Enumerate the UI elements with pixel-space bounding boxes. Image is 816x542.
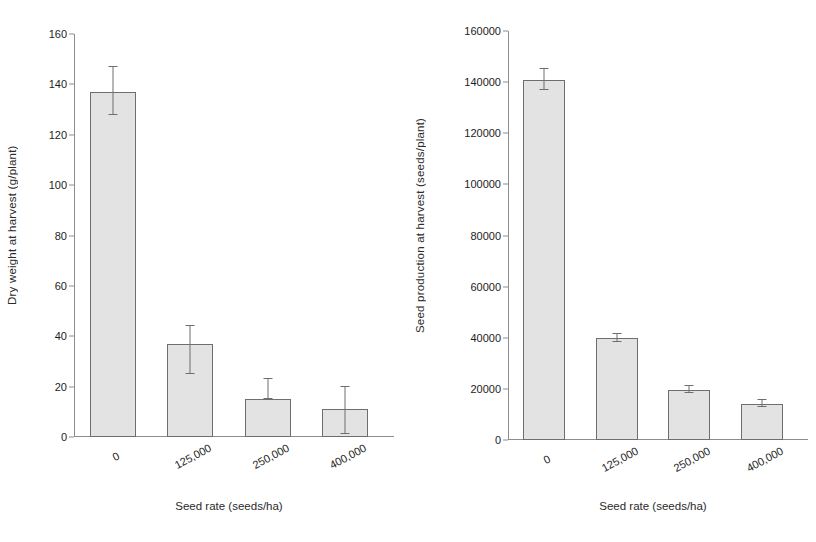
y-tick-label-right: 160000: [464, 25, 508, 37]
plot-area-left: 020406080100120140160 0125,000250,000400…: [74, 34, 384, 437]
error-bar-cap-lower: [263, 398, 272, 399]
x-axis-title-right: Seed rate (seeds/ha): [508, 500, 798, 512]
error-bar-cap-upper: [612, 333, 621, 334]
bar: [596, 338, 638, 440]
x-tick-label: 0: [110, 450, 121, 463]
bar-group: 125,000: [152, 34, 230, 437]
error-bar-cap-upper: [685, 385, 694, 386]
y-tick-label-right: 120000: [464, 127, 508, 139]
x-axis-title-left: Seed rate (seeds/ha): [74, 500, 384, 512]
x-tick-label: 250,000: [672, 445, 713, 474]
x-tick-label: 250,000: [250, 442, 291, 471]
x-tick-label: 125,000: [173, 442, 214, 471]
x-tick-label: 400,000: [744, 445, 785, 474]
bar: [90, 92, 136, 437]
bar: [668, 390, 710, 440]
bar-series-right: 0125,000250,000400,000: [508, 31, 798, 440]
error-bar-cap-upper: [757, 399, 766, 400]
error-bar-cap-lower: [108, 114, 117, 115]
error-bar-cap-upper: [263, 378, 272, 379]
bar: [245, 399, 291, 437]
y-axis-title-left: Dry weight at harvest (g/plant): [6, 60, 18, 390]
bar-group: 250,000: [229, 34, 307, 437]
error-bar-cap-upper: [341, 386, 350, 387]
bar-group: 125,000: [581, 31, 654, 440]
bar-group: 250,000: [653, 31, 726, 440]
bar-group: 400,000: [726, 31, 799, 440]
x-tick-label: 125,000: [599, 445, 640, 474]
x-tick-label: 0: [542, 453, 553, 466]
y-tick-label-right: 140000: [464, 76, 508, 88]
chart-panel-left: Dry weight at harvest (g/plant) 02040608…: [0, 0, 408, 542]
bar: [741, 404, 783, 440]
error-bar-cap-lower: [612, 341, 621, 342]
error-bar: [267, 379, 268, 399]
error-bar-cap-upper: [108, 66, 117, 67]
error-bar: [345, 387, 346, 435]
error-bar-cap-lower: [341, 433, 350, 434]
bar-group: 0: [74, 34, 152, 437]
error-bar-cap-lower: [757, 406, 766, 407]
bar-group: 400,000: [307, 34, 385, 437]
plot-area-right: 0200004000060000800001000001200001400001…: [508, 31, 798, 440]
error-bar: [190, 326, 191, 374]
chart-panel-right: Seed production at harvest (seeds/plant)…: [408, 0, 816, 542]
error-bar-cap-lower: [540, 89, 549, 90]
error-bar-cap-lower: [685, 392, 694, 393]
error-bar: [544, 69, 545, 89]
error-bar-cap-lower: [186, 373, 195, 374]
error-bar: [112, 67, 113, 115]
x-tick-label: 400,000: [328, 442, 369, 471]
error-bar-cap-upper: [186, 325, 195, 326]
bar: [523, 80, 565, 440]
y-tick-label-right: 100000: [464, 178, 508, 190]
bar-group: 0: [508, 31, 581, 440]
figure-canvas: Dry weight at harvest (g/plant) 02040608…: [0, 0, 816, 542]
bar-series-left: 0125,000250,000400,000: [74, 34, 384, 437]
error-bar-cap-upper: [540, 68, 549, 69]
y-axis-title-right: Seed production at harvest (seeds/plant): [414, 40, 426, 410]
